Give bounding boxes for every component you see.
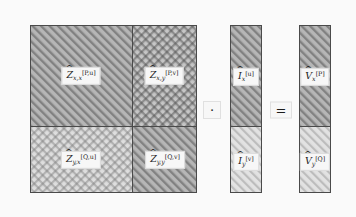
label-vq: Vy[Q] bbox=[300, 153, 330, 171]
label-zyy-symbol: Z bbox=[150, 154, 157, 164]
voltage-vector-divider bbox=[299, 126, 331, 127]
label-zyy-subscript: y,y bbox=[157, 158, 165, 165]
label-zxy-superscript: [P,v] bbox=[165, 69, 178, 76]
label-zyx-symbol: Z bbox=[66, 154, 73, 164]
label-zxx-symbol: Z bbox=[66, 70, 73, 80]
label-zxx-superscript: [P,u] bbox=[82, 69, 96, 76]
label-zyx-superscript: [Q,u] bbox=[81, 153, 97, 160]
label-iv-symbol: I bbox=[238, 156, 242, 166]
label-vq-symbol: V bbox=[305, 156, 312, 166]
block-matrix-equation-figure: Zx,x[P,u] Zx,y[P,v] Zy,x[Q,u] Zy,y[Q,v] … bbox=[0, 0, 356, 217]
label-zyx-subscript: y,x bbox=[72, 158, 80, 165]
matrix-horizontal-divider bbox=[30, 126, 197, 127]
matrix-vertical-divider bbox=[132, 25, 133, 193]
multiply-operator: · bbox=[203, 101, 221, 119]
label-iu: Ix[u] bbox=[233, 68, 259, 86]
label-vq-superscript: [Q] bbox=[315, 155, 325, 162]
equals-glyph: = bbox=[276, 103, 287, 118]
label-zxy: Zx,y[P,v] bbox=[145, 67, 184, 85]
label-iu-symbol: I bbox=[238, 71, 242, 81]
label-vp-superscript: [P] bbox=[316, 70, 325, 77]
label-iv-superscript: [v] bbox=[245, 155, 253, 162]
label-iu-superscript: [u] bbox=[245, 70, 254, 77]
label-zyx: Zy,x[Q,u] bbox=[61, 151, 101, 169]
label-zxx: Zx,x[P,u] bbox=[61, 67, 100, 85]
label-zyy: Zy,y[Q,v] bbox=[145, 151, 185, 169]
equals-operator: = bbox=[270, 102, 292, 119]
label-vp-symbol: V bbox=[305, 71, 312, 81]
label-zxy-symbol: Z bbox=[150, 70, 157, 80]
label-vp: Vx[P] bbox=[300, 68, 329, 86]
label-iv: Iy[v] bbox=[233, 153, 259, 171]
current-vector-divider bbox=[230, 126, 262, 127]
multiply-glyph: · bbox=[210, 103, 214, 118]
label-zyy-superscript: [Q,v] bbox=[165, 153, 180, 160]
